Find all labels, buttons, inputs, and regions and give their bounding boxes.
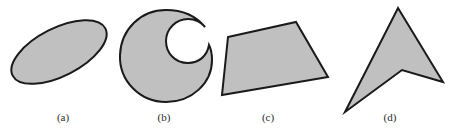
shapes-figure: (a) (b) (c) (d) [0, 0, 461, 132]
shapes-canvas [0, 0, 461, 132]
